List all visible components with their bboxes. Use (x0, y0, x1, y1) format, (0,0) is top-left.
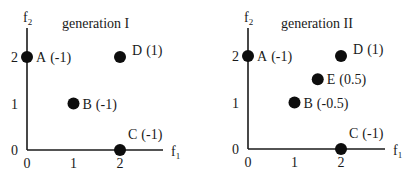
point-name: B (83, 97, 92, 112)
point-label-a: A(-1) (257, 49, 292, 65)
panel-generation-2: f2f1generation II012012A(-1)B(-0.5)C(-1)… (232, 10, 402, 170)
point-name: A (36, 50, 47, 65)
x-axis-label-subscript: 1 (398, 150, 403, 160)
point-b (68, 98, 80, 110)
panel-title: generation I (62, 16, 130, 31)
y-tick-label: 2 (232, 49, 239, 64)
point-value: (1) (367, 42, 384, 58)
point-d (335, 50, 347, 62)
x-axis-label: f1 (393, 143, 402, 160)
point-name: C (349, 126, 358, 141)
y-tick-label: 0 (11, 143, 18, 158)
point-value: (0.5) (339, 72, 366, 88)
point-label-d: D(1) (132, 43, 163, 59)
point-label-b: B(-0.5) (304, 96, 349, 112)
y-tick-label: 0 (232, 142, 239, 157)
y-axis-label: f2 (244, 10, 253, 27)
point-value: (-0.5) (317, 96, 349, 112)
point-a (21, 51, 33, 63)
y-axis-label-subscript: 2 (249, 17, 254, 27)
y-tick-label: 1 (11, 97, 18, 112)
x-tick-label: 0 (245, 155, 252, 170)
point-label-c: C(-1) (349, 126, 384, 142)
x-axis-label-subscript: 1 (176, 151, 181, 161)
point-name: B (304, 96, 313, 111)
panel-title: generation II (281, 16, 353, 31)
generation-diagram: f2f1generation I012012A(-1)B(-1)C(-1)D(1… (0, 0, 409, 180)
point-b (289, 97, 301, 109)
panel-generation-1: f2f1generation I012012A(-1)B(-1)C(-1)D(1… (11, 10, 180, 171)
point-value: (-1) (362, 126, 383, 142)
point-name: E (327, 72, 336, 87)
point-value: (-1) (271, 49, 292, 65)
x-axis-label: f1 (171, 144, 180, 161)
point-value: (1) (146, 43, 163, 59)
y-axis-label-subscript: 2 (28, 17, 33, 27)
point-label-a: A(-1) (36, 50, 71, 66)
point-label-b: B(-1) (83, 97, 118, 113)
x-tick-label: 1 (70, 156, 77, 171)
point-name: D (132, 43, 142, 58)
point-label-c: C(-1) (128, 127, 163, 143)
point-c (114, 144, 126, 156)
x-tick-label: 0 (24, 156, 31, 171)
y-axis-label: f2 (23, 10, 32, 27)
point-value: (-1) (141, 127, 162, 143)
point-a (242, 50, 254, 62)
y-tick-label: 2 (11, 50, 18, 65)
x-tick-label: 2 (117, 156, 124, 171)
point-e (312, 73, 324, 85)
point-name: A (257, 49, 268, 64)
point-label-d: D(1) (353, 42, 384, 58)
y-tick-label: 1 (232, 96, 239, 111)
point-name: C (128, 127, 137, 142)
point-name: D (353, 42, 363, 57)
point-c (335, 143, 347, 155)
x-tick-label: 2 (338, 155, 345, 170)
point-label-e: E(0.5) (327, 72, 367, 88)
point-value: (-1) (50, 50, 71, 66)
point-d (114, 51, 126, 63)
point-value: (-1) (96, 97, 117, 113)
x-tick-label: 1 (291, 155, 298, 170)
